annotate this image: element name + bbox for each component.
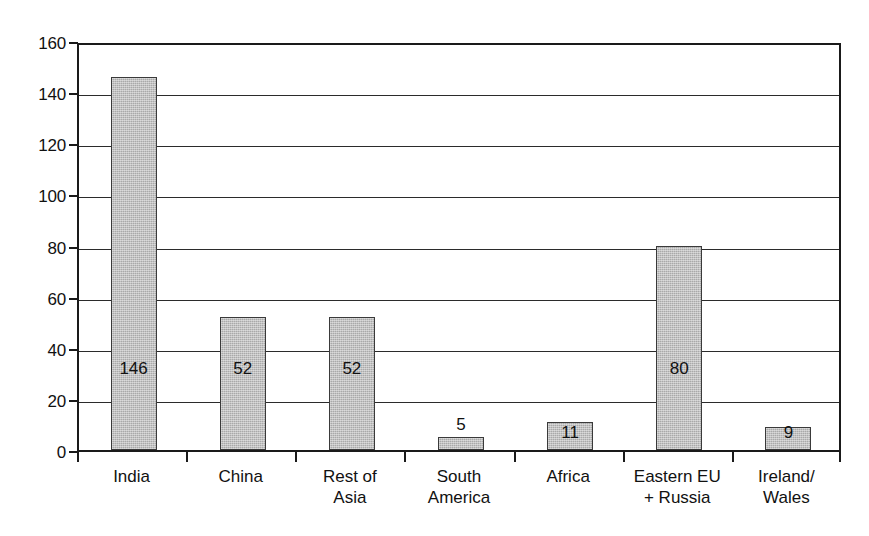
x-axis-category-label: Eastern EU+ Russia: [623, 466, 732, 508]
x-axis-category-label-line: South: [404, 466, 513, 487]
y-axis-tick-label: 0: [6, 444, 66, 461]
y-axis-tick-label: 120: [6, 137, 66, 154]
gridline: [79, 197, 839, 198]
x-axis-tick-mark: [514, 452, 516, 462]
plot-area: 1465252511809: [77, 43, 841, 452]
y-axis-tick-label: 160: [6, 35, 66, 52]
x-axis-category-label: Ireland/Wales: [732, 466, 841, 508]
x-axis-category-label: Rest ofAsia: [295, 466, 404, 508]
x-axis-tick-mark: [77, 452, 79, 462]
x-axis-tick-mark: [186, 452, 188, 462]
x-axis-tick-mark: [839, 452, 841, 462]
x-axis-tick-mark: [732, 452, 734, 462]
x-axis-category-label-line: Asia: [295, 487, 404, 508]
x-axis-category-label: Africa: [514, 466, 623, 487]
y-axis-tick-label: 140: [6, 86, 66, 103]
x-axis-category-label: China: [186, 466, 295, 487]
gridline: [79, 300, 839, 301]
y-axis-tick-label: 20: [6, 392, 66, 409]
bar-value-label: 11: [561, 424, 579, 441]
y-axis-tick-label: 100: [6, 188, 66, 205]
y-axis-tick-label: 60: [6, 290, 66, 307]
gridline: [79, 351, 839, 352]
gridline: [79, 402, 839, 403]
bar-value-label: 52: [233, 360, 252, 377]
x-axis-category-label-line: Ireland/: [732, 466, 841, 487]
bar-value-label: 52: [342, 360, 361, 377]
x-axis-tick-mark: [295, 452, 297, 462]
x-axis-tick-mark: [404, 452, 406, 462]
x-axis-category-label-line: Wales: [732, 487, 841, 508]
gridline: [79, 95, 839, 96]
bar: 52: [329, 317, 375, 450]
bar: 80: [656, 246, 702, 451]
x-axis-category-label: SouthAmerica: [404, 466, 513, 508]
x-axis-category-label-line: Eastern EU: [623, 466, 732, 487]
x-axis-category-label-line: Rest of: [295, 466, 404, 487]
bar: 5: [438, 437, 484, 450]
bar: 52: [220, 317, 266, 450]
x-axis-category-label-line: China: [186, 466, 295, 487]
x-axis-category-label: India: [77, 466, 186, 487]
x-axis-category-label-line: America: [404, 487, 513, 508]
y-axis-tick-label: 40: [6, 341, 66, 358]
bar: 9: [765, 427, 811, 450]
bar: 11: [547, 422, 593, 450]
gridline: [79, 249, 839, 250]
x-axis-category-label-line: Africa: [514, 466, 623, 487]
bar-value-label: 9: [784, 424, 793, 441]
x-axis-category-label-line: India: [77, 466, 186, 487]
y-axis-tick-label: 80: [6, 239, 66, 256]
x-axis-category-label-line: + Russia: [623, 487, 732, 508]
gridline: [79, 146, 839, 147]
bar-value-label: 146: [119, 360, 147, 377]
bar-value-label: 80: [670, 360, 689, 377]
bar-value-label: 5: [456, 416, 465, 433]
x-axis-tick-mark: [623, 452, 625, 462]
bar-chart: 020406080100120140160 1465252511809 Indi…: [0, 0, 869, 536]
bar: 146: [111, 77, 157, 450]
